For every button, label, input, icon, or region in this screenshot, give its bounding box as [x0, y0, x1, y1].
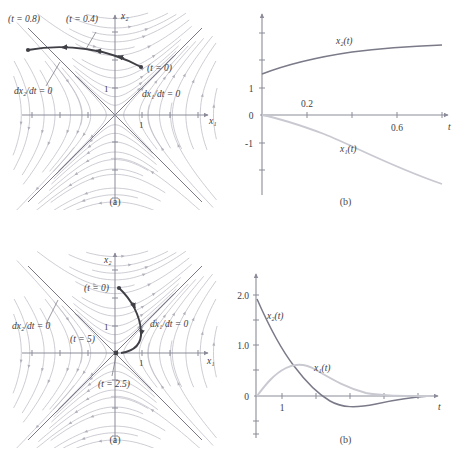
streamline-arrow-icon: [150, 408, 154, 412]
streamline-arrow-icon: [90, 177, 94, 181]
streamline-arrow-icon: [150, 170, 154, 174]
tick-label-y-20: 2.0: [237, 291, 249, 301]
streamline: [148, 105, 213, 208]
tick-label-x-1: 1: [280, 403, 285, 413]
streamline-arrow-icon: [147, 282, 151, 286]
streamline-arrow-icon: [19, 359, 22, 363]
curve-x1t: [257, 365, 430, 396]
curve-x2t: [262, 45, 442, 74]
streamline: [50, 302, 82, 410]
caption-top-right: (b): [230, 196, 461, 207]
streamline: [42, 299, 70, 410]
tick-label-y-neg1: -1: [245, 139, 253, 149]
streamline-arrow-icon: [65, 368, 69, 372]
streamline-arrow-icon: [142, 272, 146, 276]
trajectory-point-t0: [117, 286, 121, 290]
streamline: [50, 64, 82, 172]
streamline: [69, 251, 168, 266]
tick-label-y-1: 1: [104, 322, 109, 332]
streamline-arrow-icon: [145, 27, 149, 31]
axis-label-t: t: [438, 402, 441, 412]
trajectory-path: [28, 47, 141, 67]
time-response-svg-top-right: x₂(t) x₁(t) 1 0 -1 0.2 0.6 t: [230, 0, 461, 210]
axis-label-x1: x₁: [208, 116, 217, 126]
streamline-arrow-icon: [75, 368, 79, 372]
streamline-arrow-icon: [68, 421, 72, 425]
tick-label-y-0: 0: [249, 111, 254, 121]
streamline: [17, 23, 82, 126]
streamline-arrow-icon: [46, 142, 50, 146]
tick-label-y-0: 0: [244, 392, 249, 402]
panel-top-right-time-response: x₂(t) x₁(t) 1 0 -1 0.2 0.6 t (b): [230, 0, 461, 210]
label-t04: (t = 0.4): [66, 14, 98, 25]
streamline-arrow-icon: [212, 342, 215, 346]
curve-label-x1t: x₁(t): [339, 144, 357, 155]
phase-portrait-svg-bottom-left: (t = 0) (t = 5) (t = 2.5) dx₂/dt = 0 dx₁…: [0, 238, 230, 448]
label-t25: (t = 2.5): [98, 379, 130, 390]
streamline: [160, 276, 204, 386]
streamline-arrow-icon: [68, 183, 72, 187]
streamline: [214, 326, 218, 377]
label-nullcline-dx1dt: dx₁/dt = 0: [150, 319, 188, 329]
panel-top-left-phase-portrait: (t = 0.8) (t = 0.4) (t = 0) dx₂/dt = 0 d…: [0, 0, 230, 210]
streamline: [17, 261, 82, 364]
streamline-arrow-icon: [75, 130, 79, 134]
caption-top-left: (a): [0, 196, 230, 207]
tick-label-y-10: 1.0: [237, 341, 249, 351]
streamline: [172, 274, 212, 387]
tick-label-y-1: 1: [249, 84, 254, 94]
trajectory-point-t0: [139, 65, 143, 69]
label-t08: (t = 0.8): [8, 14, 40, 25]
axis-label-x1: x₁: [206, 356, 215, 366]
streamline-arrow-icon: [147, 44, 151, 48]
curve-label-x1t: x₁(t): [313, 363, 331, 374]
caption-bottom-right: (b): [230, 434, 461, 445]
streamline-arrow-icon: [183, 311, 187, 315]
label-nullcline-dx1dt: dx₁/dt = 0: [142, 89, 180, 99]
streamline-arrow-icon: [212, 104, 215, 108]
label-nullcline-dx2dt: dx₂/dt = 0: [12, 321, 50, 331]
panel-bottom-left-phase-portrait: (t = 0) (t = 5) (t = 2.5) dx₂/dt = 0 dx₁…: [0, 238, 230, 448]
streamline-arrow-icon: [121, 255, 125, 258]
streamline-arrow-icon: [142, 34, 146, 38]
curve-label-x2t: x₂(t): [335, 36, 353, 47]
axis-label-t: t: [448, 122, 451, 132]
label-t5: (t = 5): [70, 334, 95, 345]
streamline: [58, 314, 106, 409]
streamline: [22, 296, 44, 413]
tick-label-x-1: 1: [139, 120, 144, 130]
streamline: [214, 88, 218, 139]
streamline: [148, 343, 213, 446]
streamline-arrow-icon: [183, 73, 187, 77]
streamline: [42, 61, 70, 172]
trajectory-path: [119, 288, 141, 353]
streamline-arrow-icon: [19, 121, 22, 125]
axis-label-x2: x₂: [103, 255, 112, 265]
tick-label-x-1: 1: [139, 358, 144, 368]
label-nullcline-dx2dt: dx₂/dt = 0: [14, 86, 52, 96]
tick-label-x-02: 0.2: [301, 99, 313, 109]
streamline-arrow-icon: [82, 371, 86, 375]
streamline: [22, 58, 44, 175]
streamline-arrow-icon: [85, 397, 89, 401]
tick-label-x-06: 0.6: [391, 123, 403, 133]
streamline: [92, 14, 176, 35]
streamline: [86, 251, 148, 257]
trajectory-point-t5: [114, 351, 119, 356]
streamline: [58, 76, 106, 171]
streamline-arrow-icon: [65, 130, 69, 134]
caption-bottom-left: (a): [0, 434, 230, 445]
streamline-arrow-icon: [192, 79, 196, 83]
label-t0: (t = 0): [147, 63, 172, 74]
streamline-arrow-icon: [141, 305, 145, 309]
streamline-arrow-icon: [90, 415, 94, 419]
streamline-arrow-icon: [93, 45, 97, 49]
streamline-arrow-icon: [192, 317, 196, 321]
streamline-arrow-icon: [46, 380, 50, 384]
streamline-arrow-icon: [82, 133, 86, 137]
trajectory-point-t08: [26, 48, 30, 52]
label-t0: (t = 0): [84, 283, 109, 294]
streamline: [124, 293, 176, 388]
curve-label-x2t: x₂(t): [266, 311, 284, 322]
tick-label-y-1: 1: [104, 84, 109, 94]
